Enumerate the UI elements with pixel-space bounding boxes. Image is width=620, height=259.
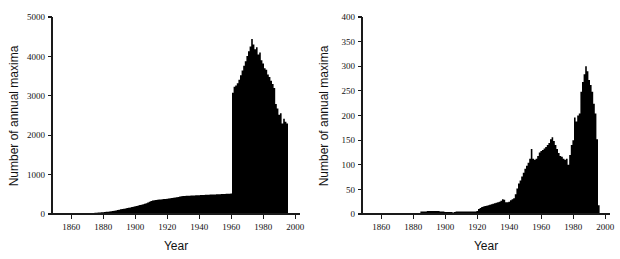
x-tick-label: 1860 — [372, 222, 391, 232]
y-tick-label: 1000 — [27, 170, 46, 180]
y-tick-group-right: 050100150200250300350400 — [342, 12, 363, 219]
series-area-right — [364, 66, 599, 214]
x-tick-label: 1940 — [500, 222, 519, 232]
y-tick-label: 0 — [41, 209, 46, 219]
x-tick-label: 1960 — [222, 222, 241, 232]
y-tick-label: 300 — [342, 61, 356, 71]
chart-svg-right: 050100150200250300350400 186018801900192… — [310, 0, 620, 259]
x-tick-label: 2000 — [596, 222, 615, 232]
figure-container: 010002000300040005000 186018801900192019… — [0, 0, 620, 259]
y-axis-title-left: Number of annual maxima — [7, 45, 21, 186]
y-tick-label: 2000 — [27, 130, 46, 140]
chart-svg-left: 010002000300040005000 186018801900192019… — [0, 0, 310, 259]
chart-panel-right: 050100150200250300350400 186018801900192… — [310, 0, 620, 259]
series-area-left — [54, 39, 289, 214]
y-tick-label: 4000 — [27, 52, 46, 62]
x-tick-label: 1940 — [190, 222, 209, 232]
x-tick-label: 1880 — [404, 222, 423, 232]
x-tick-label: 1900 — [436, 222, 455, 232]
y-tick-label: 5000 — [27, 12, 46, 22]
x-tick-label: 1980 — [564, 222, 583, 232]
y-tick-label: 150 — [342, 135, 356, 145]
y-tick-label: 200 — [342, 111, 356, 121]
y-tick-label: 3000 — [27, 91, 46, 101]
y-tick-label: 400 — [342, 12, 356, 22]
x-tick-label: 1960 — [532, 222, 551, 232]
x-axis-title-left: Year — [164, 239, 188, 253]
y-tick-label: 0 — [351, 209, 356, 219]
x-tick-label: 1900 — [126, 222, 145, 232]
x-tick-label: 1920 — [158, 222, 177, 232]
series-group-left — [54, 39, 289, 214]
x-tick-group-right: 18601880190019201940196019802000 — [372, 214, 615, 232]
y-tick-label: 100 — [342, 160, 356, 170]
x-tick-label: 1980 — [254, 222, 273, 232]
x-tick-label: 2000 — [286, 222, 305, 232]
x-tick-group-left: 18601880190019201940196019802000 — [62, 214, 305, 232]
series-group-right — [364, 66, 599, 214]
y-axis-title-right: Number of annual maxima — [317, 45, 331, 186]
x-tick-label: 1860 — [62, 222, 81, 232]
y-tick-label: 50 — [346, 185, 356, 195]
y-tick-group-left: 010002000300040005000 — [27, 12, 52, 219]
y-tick-label: 350 — [342, 37, 356, 47]
x-tick-label: 1920 — [468, 222, 487, 232]
x-axis-title-right: Year — [474, 239, 498, 253]
chart-panel-left: 010002000300040005000 186018801900192019… — [0, 0, 310, 259]
x-tick-label: 1880 — [94, 222, 113, 232]
y-tick-label: 250 — [342, 86, 356, 96]
